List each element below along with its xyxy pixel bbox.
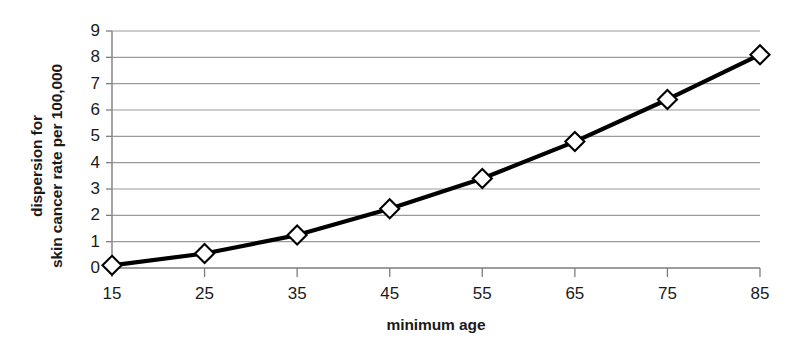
data-line — [112, 55, 760, 266]
y-tick-label: 4 — [74, 154, 100, 171]
data-marker — [195, 244, 214, 263]
y-tick-label: 0 — [74, 259, 100, 276]
x-tick-label: 75 — [645, 285, 689, 302]
gridlines — [112, 31, 760, 268]
x-tick-marks — [112, 268, 760, 277]
x-tick-label: 15 — [90, 285, 134, 302]
y-tick-label: 3 — [74, 180, 100, 197]
y-tick-label: 7 — [74, 75, 100, 92]
x-tick-label: 55 — [460, 285, 504, 302]
x-axis-title: minimum age — [112, 316, 760, 334]
y-tick-label: 6 — [74, 101, 100, 118]
data-marker — [658, 90, 677, 109]
y-tick-label: 5 — [74, 127, 100, 144]
y-tick-marks — [106, 31, 112, 268]
y-tick-label: 1 — [74, 233, 100, 250]
x-tick-label: 85 — [738, 285, 782, 302]
y-tick-label: 8 — [74, 48, 100, 65]
y-tick-label: 2 — [74, 206, 100, 223]
data-marker — [565, 132, 584, 151]
chart-figure: dispersion for skin cancer rate per 100,… — [0, 0, 797, 351]
data-marker — [473, 169, 492, 188]
x-tick-label: 65 — [553, 285, 597, 302]
data-marker — [103, 256, 122, 275]
y-tick-label: 9 — [74, 22, 100, 39]
x-tick-label: 25 — [183, 285, 227, 302]
data-markers — [103, 45, 770, 275]
x-tick-label: 35 — [275, 285, 319, 302]
x-tick-label: 45 — [368, 285, 412, 302]
data-marker — [751, 45, 770, 64]
